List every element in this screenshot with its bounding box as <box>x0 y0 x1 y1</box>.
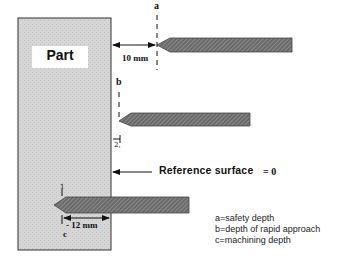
legend: a=safety depth b=depth of rapid approach… <box>215 213 320 246</box>
reference-surface-label: Reference surface <box>159 164 253 176</box>
legend-item-a: a=safety depth <box>215 213 320 224</box>
dimension-label-c: - 12 mm <box>66 220 98 230</box>
tool-a <box>157 38 292 52</box>
tick-label-c: 1 <box>60 183 64 191</box>
reference-surface-value: = 0 <box>263 166 276 177</box>
part-label: Part <box>32 47 88 63</box>
legend-item-c: c=machining depth <box>215 235 320 246</box>
z-tick-label: 2, <box>114 141 121 149</box>
legend-item-b: b=depth of rapid approach <box>215 224 320 235</box>
label-c: c <box>63 229 67 239</box>
dimension-label-a: 10 mm <box>122 53 148 63</box>
label-a: a <box>154 0 159 11</box>
label-b: b <box>116 76 122 87</box>
tool-b <box>119 113 250 126</box>
tool-c <box>54 197 189 213</box>
